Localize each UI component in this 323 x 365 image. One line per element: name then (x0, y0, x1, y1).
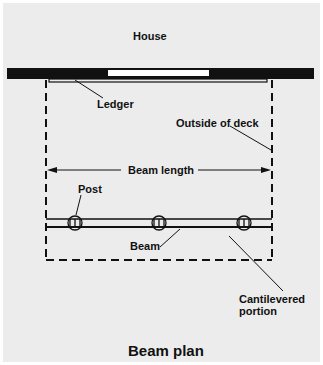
ledger (49, 79, 267, 82)
label-cantilevered: Cantilevered (239, 293, 305, 305)
label-beam: Beam (130, 240, 160, 252)
label-post: Post (78, 183, 102, 195)
label-house: House (133, 30, 167, 42)
label-beam-length: Beam length (128, 164, 194, 176)
label-outside-of-deck: Outside of deck (176, 117, 259, 129)
house-wall (7, 68, 314, 79)
diagram-title: Beam plan (128, 343, 204, 359)
label-portion: portion (239, 305, 277, 317)
label-ledger: Ledger (97, 98, 134, 110)
